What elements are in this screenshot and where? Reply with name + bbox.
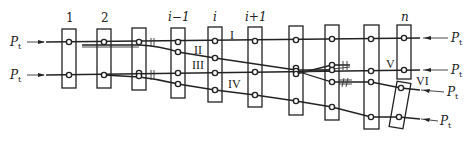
fastener-dot-icon (401, 35, 406, 40)
arrow-left-icon (424, 36, 431, 40)
tie-3 (132, 28, 146, 90)
tie-2 (97, 29, 111, 88)
tie-i-1 (171, 28, 185, 98)
arrow-left-icon (424, 68, 431, 72)
fastener-dot-icon (66, 39, 71, 44)
force-label: Pt (9, 68, 22, 84)
arrow-left-icon (423, 118, 430, 122)
fastener-dot-icon (368, 79, 373, 84)
fastener-dot-icon (66, 72, 71, 77)
fastener-dot-icon (101, 72, 106, 77)
rail-label-III: III (192, 58, 204, 72)
tie-labels: 1 2 i−1 i i+1 n (66, 10, 409, 25)
fastener-dot-icon (212, 70, 217, 75)
tie-9 (364, 25, 379, 129)
tie-label-i-plus-1: i+1 (245, 10, 267, 24)
fastener-dot-icon (175, 39, 180, 44)
tie-label-n: n (401, 10, 409, 24)
force-label: Pt (9, 35, 22, 51)
fastener-dot-icon (329, 36, 334, 41)
arrow-right-icon (38, 40, 45, 44)
fastener-dot-icon (396, 114, 401, 119)
rail-label-II: II (194, 43, 202, 57)
fastener-dot-icon (398, 85, 403, 90)
force-label: Pt (450, 31, 463, 47)
fastener-dot-icon (212, 38, 217, 43)
fastener-dot-icon (329, 67, 334, 72)
rail-label-V: V (386, 57, 395, 71)
tie-rect (171, 28, 185, 98)
arrow-left-icon (423, 89, 430, 93)
fastener-dot-icon (175, 70, 180, 75)
fastener-dot-icon (101, 39, 106, 44)
force-right-2: Pt (423, 63, 463, 79)
tie-rect (62, 29, 76, 88)
force-right-4: Pt (421, 114, 452, 130)
tie-rect (97, 29, 111, 88)
force-left-bottom: Pt (9, 68, 45, 84)
tie-label-i: i (213, 10, 217, 24)
fastener-dot-icon (368, 68, 373, 73)
fastener-dot-icon (329, 79, 334, 84)
fastener-dot-icon (252, 69, 257, 74)
fastener-dot-icon (368, 36, 373, 41)
tie-label-2: 2 (101, 11, 109, 25)
fastener-dot-icon (329, 104, 334, 109)
fastener-dot-icon (136, 73, 141, 78)
fastener-dot-icon (368, 114, 373, 119)
turnout-tie-diagram: 1 2 i−1 i i+1 n I II III IV V VI Pt Pt (0, 0, 474, 141)
rail-label-I: I (230, 28, 234, 42)
rail-joints (151, 38, 352, 87)
fastener-dot-icon (293, 98, 298, 103)
fastener-dot-icon (175, 49, 180, 54)
fastener-dot-icon (136, 39, 141, 44)
fastener-dot-icon (252, 92, 257, 97)
tie-1 (62, 29, 76, 88)
fastener-dot-icon (293, 71, 298, 76)
force-label: Pt (439, 114, 452, 130)
fastener-dot-icon (401, 67, 406, 72)
fastener-dot-icon (293, 37, 298, 42)
tie-label-1: 1 (66, 11, 74, 25)
force-label: Pt (446, 85, 459, 101)
force-right-1: Pt (423, 31, 463, 47)
tie-label-i-minus-1: i−1 (168, 10, 190, 24)
tie-rect (132, 28, 146, 90)
fastener-dot-icon (252, 38, 257, 43)
rail-label-VI: VI (416, 74, 429, 88)
fastener-dot-icon (212, 55, 217, 60)
fastener-dot-icon (175, 81, 180, 86)
rail-label-IV: IV (228, 77, 241, 91)
force-left-top: Pt (9, 35, 45, 51)
fastener-dot-icon (212, 87, 217, 92)
force-label: Pt (450, 63, 463, 79)
arrow-right-icon (38, 73, 45, 77)
